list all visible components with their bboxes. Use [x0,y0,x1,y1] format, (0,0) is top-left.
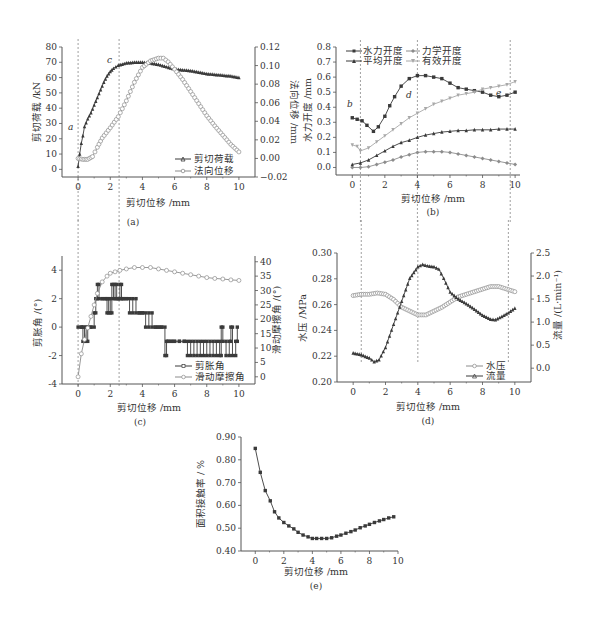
data-point [140,266,144,270]
data-point [416,74,419,77]
data-point [505,93,508,96]
data-point [448,81,451,84]
y2-tick-label: 0 [260,372,266,382]
data-point [335,534,338,537]
y2-tick-label: 2.5 [536,248,551,258]
x-tick-label: 10 [509,180,521,190]
data-point [138,69,142,73]
data-point [131,311,134,314]
data-point [221,277,225,281]
data-point [197,274,201,278]
y-tick-label: 0.70 [216,478,236,488]
data-point [138,311,141,314]
data-point [205,276,209,280]
data-point [339,533,342,536]
data-point [189,340,192,343]
y-tick-label: 0.60 [216,500,236,510]
data-point [221,340,224,343]
x-tick-label: 2 [382,180,388,190]
data-point [199,340,202,343]
data-point [128,311,131,314]
y-tick-label: 80 [46,42,58,52]
data-point [120,283,123,286]
x-tick-label: 8 [367,556,373,566]
data-point [353,528,356,531]
y-tick-label: 0.4 [317,102,332,112]
data-point [150,311,153,314]
data-point [224,354,227,357]
x-tick-label: 2 [107,389,113,399]
data-point [144,325,147,328]
y2-tick-label: 10 [260,343,272,353]
data-point [132,266,136,270]
legend-marker-square-icon [353,50,356,53]
data-point [144,311,147,314]
y-tick-label: -2 [48,351,57,361]
data-point [220,354,223,357]
y-tick-label: 0.5 [317,87,332,97]
data-point [154,325,157,328]
legend-label-effective-aperture: 有效开度 [422,55,462,66]
data-point [92,303,96,307]
data-point [101,297,104,300]
data-point [173,270,177,274]
annotation-c: c [107,55,112,65]
y2-tick-label: 40 [260,257,272,267]
x-tick-label: 4 [415,387,421,397]
data-point [89,314,93,318]
x-tick-label: 10 [392,556,404,566]
data-point [513,290,517,294]
data-point [189,273,193,277]
x-tick-label: 0 [252,556,258,566]
data-point [399,84,402,87]
data-point [76,325,79,328]
panel-e-xlabel: 剪切位移 /mm [284,566,348,577]
data-point [320,537,323,540]
legend-marker-circle-icon [181,169,185,173]
y-tick-label: 0.50 [216,523,236,533]
panel-d-y2label: 流量 /(L·min⁻¹) [552,270,563,340]
data-point [118,111,122,115]
data-point [408,77,411,80]
data-point [378,519,381,522]
panel-a-ylabel: 剪切荷载 /kN [31,82,42,142]
data-point [254,447,257,450]
legend-marker-circle-icon [473,364,477,368]
y2-tick-label: 0.02 [260,135,280,145]
panel-e-caption: (e) [310,581,322,591]
data-point [387,516,390,519]
data-point [377,125,380,128]
data-point [189,354,192,357]
legend-marker-square-icon [182,365,185,368]
x-tick-label: 10 [509,387,521,397]
data-point [148,266,152,270]
data-point [392,515,395,518]
x-tick-label: 8 [480,180,486,190]
data-point [229,340,232,343]
y-tick-label: 0.30 [312,248,332,258]
data-point [237,150,241,154]
data-point [202,340,205,343]
data-point [113,270,117,274]
x-tick-label: 10 [233,389,245,399]
data-point [211,340,214,343]
annotation-a: a [68,122,73,132]
data-point [86,326,90,330]
data-point [165,268,169,272]
y-tick-label: 0.6 [317,72,332,82]
data-point [76,375,80,379]
data-point [363,524,366,527]
panel-a-y2label: 法向位移 /mm [289,80,300,144]
legend-label-mean-aperture: 平均开度 [363,55,403,66]
data-point [440,77,443,80]
data-point [360,119,363,122]
y-tick-label: 30 [46,118,58,128]
y-tick-label: 0.20 [312,377,332,387]
data-point [224,340,227,343]
data-point [150,325,153,328]
y-tick-label: 0.24 [312,325,332,335]
x-tick-label: 6 [447,180,453,190]
x-tick-label: 6 [172,182,178,192]
x-tick-label: 2 [281,556,287,566]
data-point [208,340,211,343]
